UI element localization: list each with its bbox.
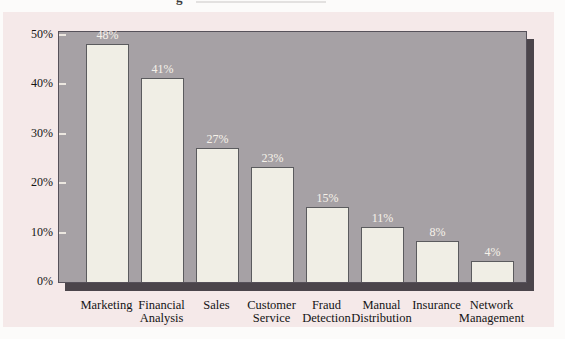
- bar-value-marketing: 48%: [86, 28, 129, 43]
- y-tick-label-40: 40%: [9, 76, 53, 91]
- y-tick-mark-40: [59, 83, 66, 85]
- chart-card: 48%41%27%23%15%11%8%4% 50%40%30%20%10%0%…: [3, 12, 554, 327]
- y-tick-label-30: 30%: [9, 126, 53, 141]
- x-tick-label-line: Distribution: [340, 312, 424, 325]
- cropped-caption-smudge: [196, 1, 326, 3]
- bar-sales: [196, 148, 239, 282]
- x-tick-label-line: Analysis: [120, 312, 204, 325]
- y-tick-mark-20: [59, 182, 66, 184]
- bar-value-network-management: 4%: [471, 245, 514, 260]
- bar-customer-service: [251, 167, 294, 282]
- bar-value-insurance: 8%: [416, 225, 459, 240]
- bar-value-manual-distribution: 11%: [361, 211, 404, 226]
- bar-value-sales: 27%: [196, 132, 239, 147]
- cropped-caption-fragment: g: [176, 0, 189, 4]
- plot-area: 48%41%27%23%15%11%8%4%: [58, 31, 527, 283]
- y-tick-label-0: 0%: [9, 274, 53, 289]
- bar-value-fraud-detection: 15%: [306, 191, 349, 206]
- y-tick-mark-10: [59, 232, 66, 234]
- page: g 48%41%27%23%15%11%8%4% 50%40%30%20%10%…: [0, 0, 565, 339]
- bar-network-management: [471, 261, 514, 282]
- y-tick-mark-30: [59, 133, 66, 135]
- bar-fraud-detection: [306, 207, 349, 282]
- y-tick-mark-50: [59, 34, 66, 36]
- bar-insurance: [416, 241, 459, 282]
- x-tick-label-network-management: NetworkManagement: [450, 299, 534, 325]
- y-tick-label-50: 50%: [9, 27, 53, 42]
- x-tick-label-line: Management: [450, 312, 534, 325]
- bar-financial-analysis: [141, 78, 184, 282]
- y-tick-label-10: 10%: [9, 225, 53, 240]
- bar-value-customer-service: 23%: [251, 151, 294, 166]
- bar-marketing: [86, 44, 129, 282]
- bar-manual-distribution: [361, 227, 404, 282]
- bar-value-financial-analysis: 41%: [141, 62, 184, 77]
- y-tick-label-20: 20%: [9, 175, 53, 190]
